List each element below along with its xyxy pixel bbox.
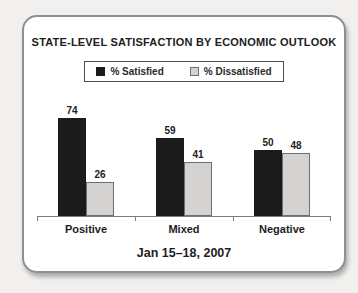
bar-group-negative: 5048 — [233, 84, 331, 216]
category-label-negative: Negative — [233, 223, 331, 235]
axis-tick — [135, 217, 136, 221]
bar-dissatisfied-negative — [282, 153, 310, 216]
bar-dissatisfied-mixed — [184, 162, 212, 216]
legend-swatch-icon — [96, 67, 105, 76]
axis-tick — [330, 217, 331, 221]
bar-satisfied-positive — [58, 118, 86, 216]
chart-title: STATE-LEVEL SATISFACTION BY ECONOMIC OUT… — [24, 36, 344, 48]
bar-unit: 41 — [184, 150, 212, 216]
bar-unit: 26 — [86, 170, 114, 216]
x-axis-line — [37, 216, 331, 222]
date-annotation: Jan 15–18, 2007 — [24, 246, 344, 260]
category-label-positive: Positive — [37, 223, 135, 235]
bar-unit: 74 — [58, 106, 86, 216]
bar-value-label: 59 — [164, 126, 175, 136]
plot-area: 742659415048 — [37, 84, 331, 216]
axis-tick — [233, 217, 234, 221]
bar-satisfied-mixed — [156, 138, 184, 216]
legend-label: % Dissatisfied — [204, 66, 272, 77]
legend-item: % Dissatisfied — [190, 66, 272, 77]
bar-value-label: 48 — [290, 141, 301, 151]
category-labels-row: PositiveMixedNegative — [37, 223, 331, 235]
bar-dissatisfied-positive — [86, 182, 114, 216]
bar-value-label: 26 — [94, 170, 105, 180]
bar-unit: 48 — [282, 141, 310, 216]
axis-tick — [37, 217, 38, 221]
bar-group-mixed: 5941 — [135, 84, 233, 216]
legend-swatch-icon — [190, 67, 199, 76]
legend-box: % Satisfied% Dissatisfied — [84, 61, 283, 82]
bar-groups: 742659415048 — [37, 84, 331, 216]
bar-value-label: 74 — [66, 106, 77, 116]
bar-unit: 59 — [156, 126, 184, 216]
bar-unit: 50 — [254, 138, 282, 216]
bar-value-label: 41 — [192, 150, 203, 160]
bar-satisfied-negative — [254, 150, 282, 216]
legend-label: % Satisfied — [110, 66, 163, 77]
bar-value-label: 50 — [262, 138, 273, 148]
bar-group-positive: 7426 — [37, 84, 135, 216]
category-label-mixed: Mixed — [135, 223, 233, 235]
slide-card: STATE-LEVEL SATISFACTION BY ECONOMIC OUT… — [22, 15, 346, 273]
legend-item: % Satisfied — [96, 66, 163, 77]
legend-wrap: % Satisfied% Dissatisfied — [24, 61, 344, 82]
